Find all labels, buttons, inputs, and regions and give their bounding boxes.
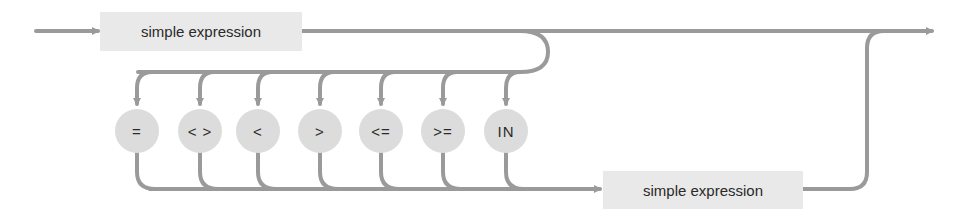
operator-less-than: < [236, 109, 280, 153]
operator-not-equal: < > [178, 109, 222, 153]
box-label: simple expression [643, 182, 763, 199]
operator-greater-than: > [298, 109, 342, 153]
operator-equal: = [115, 109, 159, 153]
operator-in: IN [484, 109, 528, 153]
operator-greater-or-equal: >= [421, 109, 465, 153]
simple-expression-box-bottom: simple expression [603, 171, 803, 209]
return-line [803, 31, 884, 189]
operator-less-or-equal: <= [359, 109, 403, 153]
simple-expression-box-top: simple expression [100, 12, 302, 51]
box-label: simple expression [141, 23, 261, 40]
